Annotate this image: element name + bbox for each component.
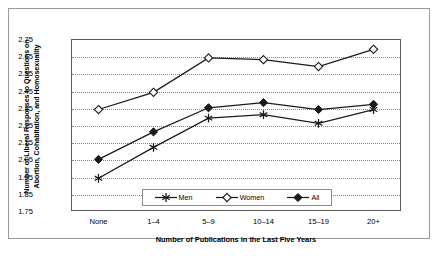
legend-swatch-filled-diamond bbox=[287, 192, 309, 203]
figure-frame: Number of Liberal Responses to Questions… bbox=[8, 8, 430, 239]
y-axis-tick-label: 2.65 bbox=[3, 52, 33, 61]
data-point-open-diamond bbox=[204, 54, 212, 62]
data-point-filled-diamond bbox=[259, 99, 267, 107]
x-axis-tick-label: 1–4 bbox=[124, 217, 184, 226]
data-point-open-diamond bbox=[223, 193, 231, 201]
y-axis-tick-label: 1.75 bbox=[3, 207, 33, 216]
data-point-open-diamond bbox=[314, 62, 322, 70]
x-axis-tick-label: 10–14 bbox=[234, 217, 294, 226]
y-axis-tick-label: 1.85 bbox=[3, 189, 33, 198]
data-point-open-diamond bbox=[369, 45, 377, 53]
legend-swatch-open-diamond bbox=[216, 192, 238, 203]
series-lines bbox=[71, 39, 401, 211]
chart-legend: MenWomenAll bbox=[142, 189, 332, 206]
x-axis-tick-label: 15–19 bbox=[289, 217, 349, 226]
data-point-asterisk bbox=[150, 143, 158, 152]
data-point-filled-diamond bbox=[294, 193, 302, 201]
legend-entry-men: Men bbox=[155, 192, 193, 203]
x-axis-tick-label: None bbox=[69, 217, 129, 226]
legend-entry-women: Women bbox=[216, 192, 265, 203]
data-point-filled-diamond bbox=[94, 155, 102, 163]
series-line-men bbox=[99, 110, 374, 179]
x-axis-title: Number of Publications in the Last Five … bbox=[71, 235, 401, 244]
legend-label: Men bbox=[179, 193, 193, 202]
data-point-open-diamond bbox=[149, 88, 157, 96]
data-point-filled-diamond bbox=[314, 105, 322, 113]
x-axis-tick-label: 5–9 bbox=[179, 217, 239, 226]
y-axis-tick-label: 2.35 bbox=[3, 103, 33, 112]
data-point-filled-diamond bbox=[204, 104, 212, 112]
x-axis-tick-label: 20+ bbox=[344, 217, 404, 226]
y-axis-tick-label: 2.25 bbox=[3, 121, 33, 130]
y-axis-tick-label: 2.45 bbox=[3, 86, 33, 95]
y-axis-tick-label: 2.15 bbox=[3, 138, 33, 147]
legend-label: Women bbox=[240, 193, 265, 202]
legend-swatch-asterisk bbox=[155, 192, 177, 203]
series-line-women bbox=[99, 49, 374, 109]
legend-label: All bbox=[311, 193, 319, 202]
data-point-filled-diamond bbox=[149, 128, 157, 136]
y-axis-tick-label: 2.05 bbox=[3, 155, 33, 164]
caption-strip bbox=[8, 248, 308, 262]
y-axis-tick-label: 1.95 bbox=[3, 172, 33, 181]
data-point-asterisk bbox=[95, 174, 103, 183]
y-axis-tick-label: 2.75 bbox=[3, 35, 33, 44]
y-axis-tick-label: 2.55 bbox=[3, 69, 33, 78]
legend-entry-all: All bbox=[287, 192, 319, 203]
series-line-all bbox=[99, 103, 374, 160]
data-point-open-diamond bbox=[259, 56, 267, 64]
data-point-open-diamond bbox=[94, 105, 102, 113]
